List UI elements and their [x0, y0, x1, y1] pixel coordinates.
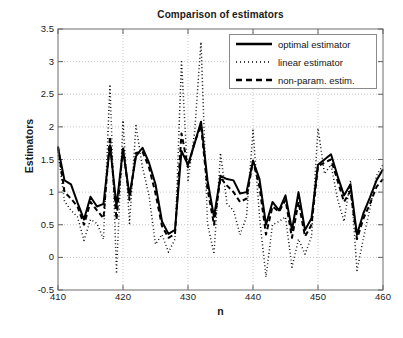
- x-tick-label: 450: [298, 291, 338, 302]
- x-tick-label: 420: [103, 291, 143, 302]
- y-tick-text: 0: [2, 251, 54, 262]
- x-tick-label: 410: [38, 291, 78, 302]
- y-tick-label: 3: [0, 56, 54, 68]
- y-tick-text: 0.5: [2, 219, 54, 230]
- legend-swatch-dotted: [234, 55, 274, 69]
- x-axis-label: n: [58, 305, 383, 317]
- legend-swatch-dashed: [234, 73, 274, 87]
- y-tick-label: 0.5: [0, 219, 54, 231]
- y-tick-label: 3.5: [0, 23, 54, 35]
- legend-item-linear: linear estimator: [230, 53, 376, 71]
- legend: optimal estimator linear estimator non-p…: [229, 34, 377, 89]
- y-axis-label: Estimators: [23, 86, 35, 206]
- legend-item-optimal: optimal estimator: [230, 35, 376, 53]
- y-tick-text: 3.5: [2, 23, 54, 34]
- x-tick-label: 440: [233, 291, 273, 302]
- legend-label-optimal: optimal estimator: [278, 39, 350, 50]
- legend-item-nonparam: non-param. estim.: [230, 71, 376, 89]
- y-tick-label: 0: [0, 251, 54, 263]
- x-tick-label: 430: [168, 291, 208, 302]
- y-tick-text: 3: [2, 56, 54, 67]
- legend-swatch-solid: [234, 37, 274, 51]
- figure-container: Comparison of estimators 3.532.521.510.5…: [0, 0, 403, 338]
- x-tick-label: 460: [363, 291, 403, 302]
- legend-label-linear: linear estimator: [278, 57, 343, 68]
- legend-label-nonparam: non-param. estim.: [278, 75, 355, 86]
